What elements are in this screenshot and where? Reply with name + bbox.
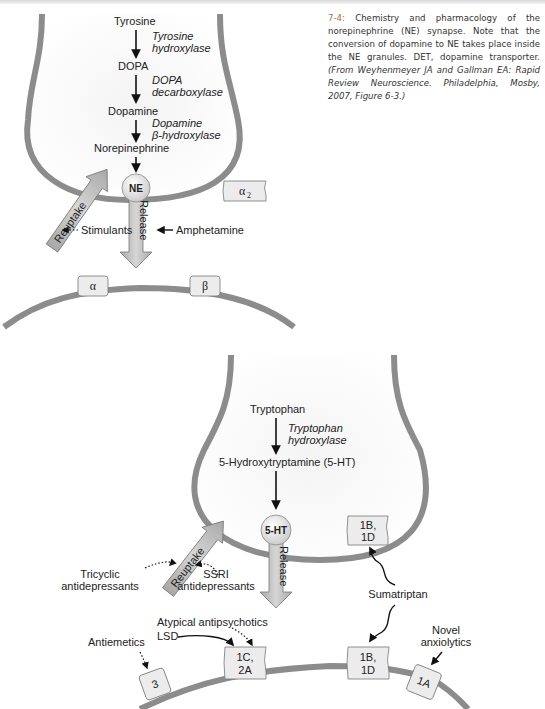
ne-drug-amphetamine: Amphetamine (176, 224, 244, 236)
tricyclic-arrow (145, 562, 171, 568)
ne-receptor-alpha: α (78, 276, 108, 296)
ne-substance-norepinephrine: Norepinephrine (94, 142, 169, 154)
novel-anxiolytics-arrow (432, 652, 442, 664)
ne-drug-stimulants: Stimulants (81, 224, 133, 236)
ne-release-label: Release (138, 200, 150, 240)
ne-enzyme-2b: decarboxylase (152, 86, 223, 98)
ne-postsynaptic-membrane (4, 288, 294, 327)
5ht-receptor-1c2a: 1C, 2A (224, 647, 266, 679)
ne-substance-dopamine: Dopamine (108, 105, 158, 117)
svg-text:1B,: 1B, (360, 519, 377, 531)
5ht-substance-serotonin: 5-Hydroxytryptamine (5-HT) (219, 456, 355, 468)
5ht-drug-tricyclic-1: Tricyclic (80, 568, 120, 580)
5ht-drug-sumatriptan: Sumatriptan (368, 588, 427, 600)
ne-enzyme-2a: DOPA (152, 74, 182, 86)
ne-synapse: Tyrosine Tyrosine hydroxylase DOPA DOPA … (4, 14, 294, 327)
atypical-arrow (232, 628, 252, 645)
svg-text:1C,: 1C, (236, 651, 253, 663)
5ht-drug-novel-2: anxiolytics (421, 636, 472, 648)
ne-receptor-alpha2: α 2 (223, 181, 266, 201)
5ht-receptor-1a: 1A (406, 664, 442, 700)
lsd-arrow (178, 636, 233, 645)
svg-text:2A: 2A (238, 664, 252, 676)
svg-text:1D: 1D (361, 531, 375, 543)
ne-enzyme-1a: Tyrosine (152, 30, 193, 42)
svg-text:β: β (202, 279, 208, 293)
svg-text:1D: 1D (361, 664, 375, 676)
5ht-drug-novel-1: Novel (432, 624, 460, 636)
5ht-enzyme-b: hydroxylase (288, 434, 347, 446)
5ht-drug-antiemetics: Antiemetics (88, 636, 145, 648)
5ht-drug-ssri-1: SSRI (203, 568, 229, 580)
5ht-enzyme-a: Tryptophan (288, 422, 343, 434)
5ht-drug-ssri-2: antidepressants (177, 580, 255, 592)
5ht-receptor-post-1b1d: 1B, 1D (347, 647, 389, 679)
5ht-substance-tryptophan: Tryptophan (250, 403, 305, 415)
5ht-drug-lsd: LSD (157, 630, 178, 642)
ne-receptor-beta: β (190, 276, 220, 296)
ne-enzyme-3a: Dopamine (152, 117, 202, 129)
antiemetics-arrow (140, 652, 147, 668)
5ht-release-label: Release (278, 546, 290, 586)
ne-enzyme-1b: hydroxylase (152, 42, 211, 54)
svg-text:1B,: 1B, (360, 651, 377, 663)
ne-vesicle-label: NE (129, 183, 143, 194)
ne-substance-dopa: DOPA (118, 60, 149, 72)
svg-text:α: α (239, 184, 246, 198)
ne-substance-tyrosine: Tyrosine (114, 15, 156, 27)
svg-text:2: 2 (247, 191, 251, 200)
svg-text:α: α (90, 279, 97, 293)
ne-reuptake-label: Reuptake (52, 199, 89, 244)
5ht-drug-tricyclic-2: antidepressants (61, 580, 139, 592)
sumatriptan-arrow-post (370, 605, 395, 641)
5ht-synapse: Tryptophan Tryptophan hydroxylase 5-Hydr… (61, 355, 472, 709)
ne-enzyme-3b: β-hydroxylase (151, 129, 221, 141)
5ht-receptor-pre-1b1d: 1B, 1D (347, 516, 388, 545)
5ht-vesicle-label: 5-HT (265, 525, 287, 536)
synapse-diagram: Tyrosine Tyrosine hydroxylase DOPA DOPA … (0, 0, 545, 709)
5ht-drug-atypical: Atypical antipsychotics (157, 616, 268, 628)
